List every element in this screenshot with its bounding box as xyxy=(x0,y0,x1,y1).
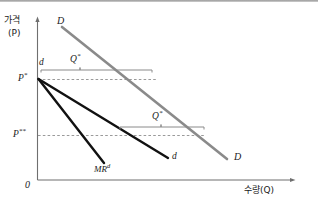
lower-quantity-bracket xyxy=(120,125,204,130)
price-p-double-star-asterisk: ** xyxy=(19,127,26,135)
y-axis-title-unit: (P) xyxy=(8,29,20,38)
price-p-double-star-label: P** xyxy=(13,128,26,140)
x-axis-title-label: 수량(Q) xyxy=(244,185,274,195)
marginal-revenue-curve xyxy=(39,79,105,163)
market-demand-bottom-label: D xyxy=(234,152,241,162)
lower-quantity-asterisk: * xyxy=(159,109,163,117)
upper-quantity-label: Q* xyxy=(70,53,80,65)
upper-quantity-text: Q xyxy=(70,54,77,64)
upper-quantity-bracket xyxy=(41,68,152,73)
y-axis-title: 가격 xyxy=(4,16,20,25)
firm-demand-right-text: d xyxy=(172,151,177,161)
x-axis-arrow-icon xyxy=(290,178,296,182)
y-axis-arrow-icon xyxy=(35,17,39,23)
firm-demand-curve xyxy=(39,79,169,158)
market-demand-top-label: D xyxy=(57,16,64,26)
market-demand-top-text: D xyxy=(57,15,64,26)
y-axis-title-line1: 가격 xyxy=(4,15,20,25)
price-p-star-label: P* xyxy=(18,72,27,84)
firm-demand-right-label: d xyxy=(172,152,177,162)
y-axis-title-line2: (P) xyxy=(8,28,20,38)
economics-figure xyxy=(0,0,318,207)
price-p-star-asterisk: * xyxy=(24,71,28,79)
origin-label: 0 xyxy=(25,180,30,190)
upper-quantity-asterisk: * xyxy=(77,52,81,60)
market-demand-bottom-text: D xyxy=(234,151,241,162)
marginal-revenue-superscript: d xyxy=(107,162,110,169)
firm-demand-left-label: d xyxy=(39,58,44,68)
x-axis-title: 수량(Q) xyxy=(244,186,274,195)
marginal-revenue-text: MR xyxy=(94,164,107,174)
lower-quantity-label: Q* xyxy=(152,110,162,122)
firm-demand-left-text: d xyxy=(39,57,44,67)
marginal-revenue-label: MRd xyxy=(94,163,110,174)
lower-quantity-text: Q xyxy=(152,111,159,121)
origin-value: 0 xyxy=(25,179,30,190)
